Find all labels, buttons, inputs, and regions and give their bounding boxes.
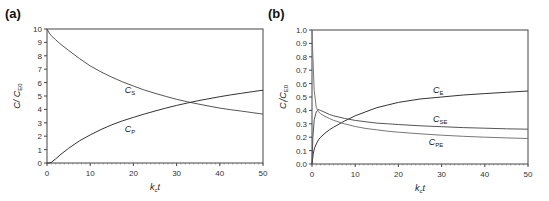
y-tick-label: 7 bbox=[38, 65, 43, 74]
series-line-c-e bbox=[312, 91, 528, 164]
panel-label: (a) bbox=[5, 6, 21, 21]
x-tick-label: 10 bbox=[86, 169, 95, 178]
y-tick-label: 8 bbox=[38, 52, 43, 61]
y-tick-label: 0.4 bbox=[296, 106, 308, 115]
x-axis-label: kct bbox=[415, 183, 426, 194]
series-label: CPE bbox=[429, 137, 444, 148]
y-axis-label: Ci/CE0 bbox=[278, 84, 289, 109]
y-tick-label: 0.3 bbox=[296, 120, 308, 129]
y-tick-label: 0.7 bbox=[296, 66, 308, 75]
x-tick-label: 10 bbox=[351, 170, 360, 179]
plot-frame bbox=[312, 30, 528, 164]
x-tick-label: 0 bbox=[310, 170, 315, 179]
series-label: CP bbox=[125, 124, 136, 135]
y-tick-label: 1.0 bbox=[296, 26, 308, 35]
x-tick-label: 20 bbox=[129, 169, 138, 178]
panel-label: (b) bbox=[268, 6, 285, 21]
y-tick-label: 0.8 bbox=[296, 53, 308, 62]
x-tick-label: 0 bbox=[45, 169, 50, 178]
chart-panel-a: 01234567891001020304050(a)kctC/ CE0CSCP bbox=[5, 6, 268, 193]
y-tick-label: 0.0 bbox=[296, 160, 308, 169]
x-axis-label: kct bbox=[150, 182, 161, 193]
y-tick-label: 0.1 bbox=[296, 147, 308, 156]
x-tick-label: 50 bbox=[524, 170, 533, 179]
x-tick-label: 40 bbox=[215, 169, 224, 178]
chart-figure: 01234567891001020304050(a)kctC/ CE0CSCP0… bbox=[0, 0, 549, 201]
series-label: CS bbox=[125, 85, 136, 96]
y-tick-label: 1 bbox=[38, 146, 43, 155]
y-axis-label: C/ CE0 bbox=[12, 83, 23, 109]
series-label: CSE bbox=[433, 114, 448, 125]
x-tick-label: 50 bbox=[259, 169, 268, 178]
chart-panel-b: 0.00.10.20.30.40.50.60.70.80.91.00102030… bbox=[268, 6, 533, 194]
series-label: CE bbox=[433, 85, 444, 96]
y-tick-label: 4 bbox=[38, 105, 43, 114]
series-line-c-s bbox=[47, 29, 263, 114]
y-tick-label: 5 bbox=[38, 92, 43, 101]
series-line-c-se bbox=[312, 110, 528, 164]
y-tick-label: 0.5 bbox=[296, 93, 308, 102]
y-tick-label: 10 bbox=[33, 25, 42, 34]
x-tick-label: 20 bbox=[394, 170, 403, 179]
y-tick-label: 2 bbox=[38, 132, 43, 141]
series-line-c-p bbox=[47, 90, 263, 163]
y-tick-label: 6 bbox=[38, 79, 43, 88]
y-tick-label: 3 bbox=[38, 119, 43, 128]
y-tick-label: 0.9 bbox=[296, 39, 308, 48]
x-tick-label: 30 bbox=[172, 169, 181, 178]
y-tick-label: 9 bbox=[38, 38, 43, 47]
series-line-c-pe bbox=[312, 30, 528, 139]
y-tick-label: 0.6 bbox=[296, 80, 308, 89]
plot-frame bbox=[47, 29, 263, 163]
y-tick-label: 0 bbox=[38, 159, 43, 168]
x-tick-label: 30 bbox=[437, 170, 446, 179]
x-tick-label: 40 bbox=[480, 170, 489, 179]
y-tick-label: 0.2 bbox=[296, 133, 308, 142]
